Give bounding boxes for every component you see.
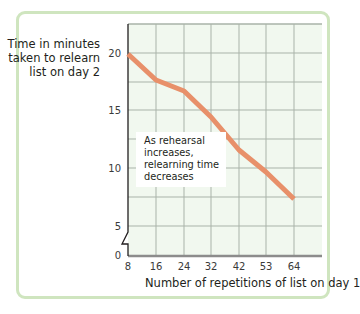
y-axis: [122, 24, 128, 256]
annotation-box: As rehearsal increases, relearning time …: [136, 132, 226, 187]
svg-text:53: 53: [260, 261, 273, 272]
svg-text:8: 8: [125, 261, 131, 272]
svg-text:10: 10: [108, 163, 121, 174]
svg-text:15: 15: [108, 105, 121, 116]
svg-text:16: 16: [150, 261, 163, 272]
svg-text:0: 0: [115, 250, 121, 261]
svg-text:20: 20: [108, 48, 121, 59]
x-axis-label: Number of repetitions of list on day 1: [145, 276, 360, 290]
y-tick-labels: 20 15 10 5 0: [108, 48, 121, 261]
svg-text:24: 24: [178, 261, 191, 272]
svg-text:5: 5: [115, 221, 121, 232]
svg-text:32: 32: [205, 261, 218, 272]
x-tick-labels: 8 16 24 32 42 53 64: [125, 261, 301, 272]
svg-text:64: 64: [288, 261, 301, 272]
svg-text:42: 42: [233, 261, 246, 272]
